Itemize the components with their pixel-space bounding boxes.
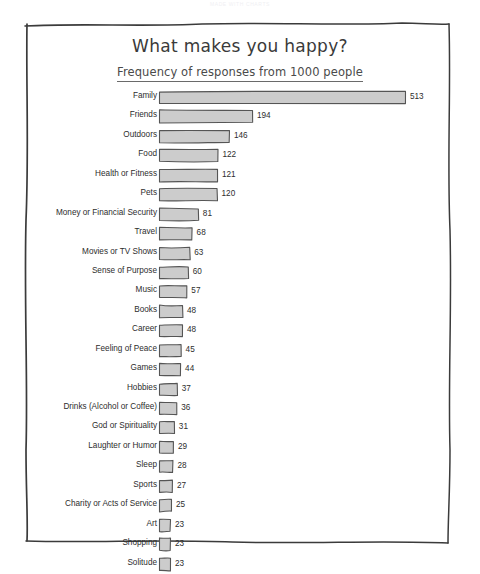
bar-shape (158, 304, 185, 320)
bar-shape (158, 479, 175, 495)
bar-category-label: Drinks (Alcohol or Coffee) (0, 402, 157, 411)
bar-row: Solitude23 (0, 555, 480, 574)
bar-category-label: Food (0, 149, 157, 158)
bar-category-label: Charity or Acts of Service (0, 499, 157, 508)
bar-category-label: Solitude (0, 558, 157, 567)
bar-shape (158, 226, 195, 242)
bar-category-label: Friends (0, 110, 157, 119)
bar-shape (158, 537, 173, 553)
bar-row: Health or Fitness121 (0, 166, 480, 185)
bar-category-label: Books (0, 305, 157, 314)
bar-value-label: 23 (175, 520, 184, 529)
bar-value-label: 194 (257, 111, 271, 120)
bar-category-label: Movies or TV Shows (0, 247, 157, 256)
bar-row: Travel68 (0, 224, 480, 243)
bar-value-label: 60 (193, 267, 202, 276)
bar-shape (158, 420, 177, 436)
bar-row: Outdoors146 (0, 127, 480, 146)
bar-row: Friends194 (0, 107, 480, 126)
chart-title: What makes you happy? (0, 36, 480, 56)
bar-value-label: 48 (187, 306, 196, 315)
bar-row: Food122 (0, 146, 480, 165)
bar-category-label: Sports (0, 480, 157, 489)
bar-shape (158, 518, 173, 534)
bar-category-label: Health or Fitness (0, 169, 157, 178)
bar-shape (158, 557, 173, 573)
bar-shape (158, 90, 408, 106)
bar-shape (158, 284, 189, 300)
bar-row: Sports27 (0, 477, 480, 496)
bar-shape (158, 148, 221, 164)
bar-category-label: Pets (0, 188, 157, 197)
bar-shape (158, 401, 179, 417)
bar-shape (158, 129, 232, 145)
bar-row: Movies or TV Shows63 (0, 244, 480, 263)
bar-category-label: God or Spirituality (0, 421, 157, 430)
bar-shape (158, 109, 255, 125)
bar-value-label: 146 (234, 131, 248, 140)
bar-category-label: Career (0, 324, 157, 333)
bar-category-label: Sleep (0, 460, 157, 469)
bar-value-label: 25 (176, 500, 185, 509)
bar-shape (158, 440, 176, 456)
bar-row: Music57 (0, 282, 480, 301)
bar-value-label: 23 (175, 539, 184, 548)
bar-shape (158, 498, 174, 514)
bar-value-label: 36 (181, 403, 190, 412)
bar-row: Pets120 (0, 185, 480, 204)
bar-row: Feeling of Peace45 (0, 341, 480, 360)
bar-row: Career48 (0, 321, 480, 340)
bar-category-label: Art (0, 519, 157, 528)
bar-row: Sense of Purpose60 (0, 263, 480, 282)
bar-row: Books48 (0, 302, 480, 321)
bar-category-label: Music (0, 285, 157, 294)
bar-value-label: 68 (197, 228, 206, 237)
bar-category-label: Travel (0, 227, 157, 236)
bar-value-label: 31 (179, 422, 188, 431)
chart-subtitle-wrap: Frequency of responses from 1000 people (0, 62, 480, 82)
bar-value-label: 37 (182, 384, 191, 393)
bar-row: Games44 (0, 360, 480, 379)
bar-category-label: Hobbies (0, 383, 157, 392)
bar-value-label: 29 (178, 442, 187, 451)
bar-value-label: 121 (222, 170, 236, 179)
bar-value-label: 63 (194, 248, 203, 257)
bar-category-label: Family (0, 91, 157, 100)
bar-row: Family513 (0, 88, 480, 107)
bar-category-label: Games (0, 363, 157, 372)
bar-value-label: 48 (187, 325, 196, 334)
bar-shape (158, 382, 180, 398)
bar-value-label: 44 (185, 364, 194, 373)
bar-value-label: 27 (177, 481, 186, 490)
bar-row: Hobbies37 (0, 380, 480, 399)
bar-row: Art23 (0, 516, 480, 535)
bar-category-label: Feeling of Peace (0, 344, 157, 353)
bar-row: Laughter or Humor29 (0, 438, 480, 457)
bar-category-label: Outdoors (0, 130, 157, 139)
bar-value-label: 81 (203, 209, 212, 218)
bar-row: Charity or Acts of Service25 (0, 496, 480, 515)
bar-category-label: Shopping (0, 538, 157, 547)
bar-category-label: Laughter or Humor (0, 441, 157, 450)
bar-row: Drinks (Alcohol or Coffee)36 (0, 399, 480, 418)
bar-row: Shopping23 (0, 535, 480, 554)
bar-shape (158, 343, 184, 359)
bar-category-label: Money or Financial Security (0, 208, 157, 217)
bar-rows: Family513Friends194Outdoors146Food122Hea… (0, 88, 480, 574)
bar-shape (158, 323, 185, 339)
bar-row: Money or Financial Security81 (0, 205, 480, 224)
bar-row: Sleep28 (0, 457, 480, 476)
bar-shape (158, 207, 201, 223)
bar-category-label: Sense of Purpose (0, 266, 157, 275)
bar-value-label: 45 (186, 345, 195, 354)
bar-value-label: 28 (177, 461, 186, 470)
bar-shape (158, 265, 191, 281)
bar-shape (158, 187, 220, 203)
bar-shape (158, 362, 183, 378)
bar-value-label: 513 (410, 92, 424, 101)
bar-value-label: 122 (223, 150, 237, 159)
bar-row: God or Spirituality31 (0, 418, 480, 437)
bar-shape (158, 459, 175, 475)
chart-subtitle: Frequency of responses from 1000 people (117, 65, 363, 82)
